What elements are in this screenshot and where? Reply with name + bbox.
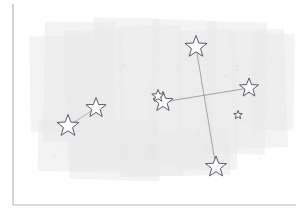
speckle-dot: [254, 114, 255, 115]
speckle-dot: [115, 113, 116, 114]
speckle-dot: [228, 162, 229, 163]
speckle-dot: [149, 142, 150, 143]
speckle-dot: [38, 42, 39, 43]
brush-stroke: [69, 138, 160, 181]
speckle-dot: [102, 161, 104, 163]
speckle-dot: [86, 47, 87, 48]
speckle-dot: [282, 132, 283, 133]
speckle-dot: [235, 157, 237, 159]
speckle-dot: [243, 23, 245, 25]
speckle-dot: [272, 81, 274, 83]
speckle-dot: [155, 81, 156, 82]
speckle-dot: [260, 158, 262, 160]
speckle-dot: [29, 137, 30, 138]
speckle-dot: [45, 141, 46, 142]
speckle-dot: [178, 82, 179, 83]
speckle-dot: [175, 70, 177, 72]
speckle-dot: [174, 65, 175, 66]
speckle-dot: [55, 156, 57, 158]
speckle-dot: [278, 159, 279, 160]
speckle-dot: [173, 95, 174, 96]
speckle-dot: [233, 38, 234, 39]
speckle-dot: [173, 108, 174, 109]
speckle-dot: [149, 33, 150, 34]
speckle-dot: [235, 91, 236, 92]
speckle-dot: [270, 134, 271, 135]
speckle-dot: [47, 82, 48, 83]
speckle-dot: [229, 92, 230, 93]
speckle-dot: [252, 77, 253, 78]
speckle-dot: [179, 66, 180, 67]
speckle-dot: [226, 144, 227, 145]
speckle-dot: [47, 62, 48, 63]
speckle-dot: [256, 62, 257, 63]
speckle-dot: [116, 32, 117, 33]
speckle-dot: [79, 113, 80, 114]
speckle-dot: [86, 65, 88, 67]
speckle-dot: [266, 167, 267, 168]
speckle-dot: [166, 153, 167, 154]
speckle-dot: [142, 24, 143, 25]
speckle-dot: [244, 46, 246, 48]
speckle-dot: [270, 57, 271, 58]
speckle-dot: [166, 90, 167, 91]
speckle-dot: [59, 34, 60, 35]
speckle-dot: [139, 123, 140, 124]
speckle-dot: [145, 59, 147, 61]
speckle-dot: [275, 166, 276, 167]
speckle-dot: [220, 118, 221, 119]
speckle-dot: [253, 133, 254, 134]
speckle-dot: [131, 123, 133, 125]
speckle-dot: [177, 82, 178, 83]
speckle-dot: [154, 152, 155, 153]
speckle-dot: [279, 145, 280, 146]
speckle-dot: [76, 126, 77, 127]
speckle-dot: [70, 163, 71, 164]
speckle-dot: [85, 30, 86, 31]
speckle-dot: [117, 153, 118, 154]
speckle-dot: [90, 143, 91, 144]
speckle-dot: [259, 158, 261, 160]
speckle-dot: [232, 65, 233, 66]
constellation-scene: [0, 0, 301, 215]
speckle-dot: [70, 115, 72, 117]
speckle-dot: [185, 69, 186, 70]
speckle-dot: [189, 25, 190, 26]
speckle-dot: [58, 147, 60, 149]
speckle-dot: [121, 47, 122, 48]
speckle-dot: [101, 54, 103, 56]
speckle-dot: [46, 166, 47, 167]
speckle-dot: [258, 35, 259, 36]
speckle-dot: [91, 44, 92, 45]
speckle-dot: [69, 170, 70, 171]
speckle-dot: [280, 44, 281, 45]
speckle-dot: [112, 76, 113, 77]
speckle-dot: [168, 85, 170, 87]
speckle-dot: [198, 133, 200, 135]
speckle-dot: [156, 33, 158, 35]
speckle-dot: [115, 151, 116, 152]
speckle-dot: [170, 171, 171, 172]
speckle-dot: [112, 33, 114, 35]
speckle-dot: [85, 86, 86, 87]
speckle-dot: [52, 154, 54, 156]
speckle-dot: [117, 22, 119, 24]
speckle-dot: [47, 32, 48, 33]
speckle-dot: [139, 52, 140, 53]
speckle-dot: [80, 60, 81, 61]
speckle-dot: [225, 123, 226, 124]
speckle-dot: [61, 160, 63, 162]
speckle-dot: [213, 95, 214, 96]
speckle-dot: [31, 83, 33, 85]
speckle-dot: [277, 53, 278, 54]
speckle-dot: [205, 147, 206, 148]
speckle-dot: [82, 40, 83, 41]
speckle-dot: [281, 33, 283, 35]
speckle-dot: [213, 91, 215, 93]
speckle-dot: [261, 87, 262, 88]
speckle-dot: [42, 50, 43, 51]
speckle-dot: [28, 61, 29, 62]
speckle-dot: [190, 83, 191, 84]
speckle-dot: [258, 18, 259, 19]
speckle-dot: [244, 50, 246, 52]
